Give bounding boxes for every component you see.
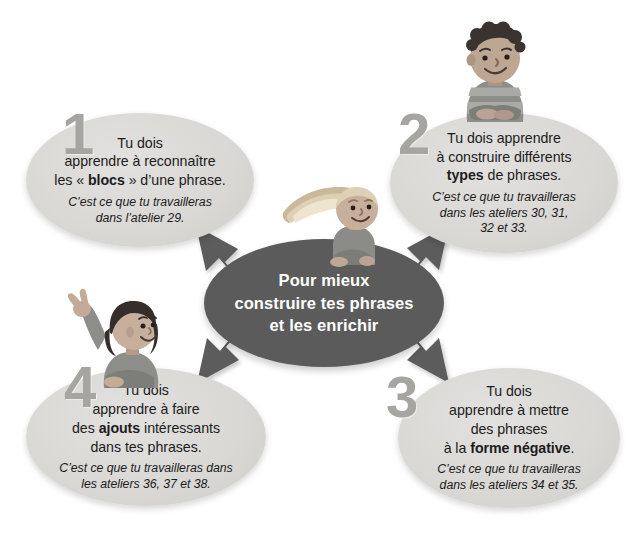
step-3-content: Tu doisapprendre à mettredes phrasesà la… — [414, 382, 605, 493]
step-2-content: Tu dois apprendreà construire différents… — [406, 129, 602, 237]
step-bubble-1[interactable]: Tu doisapprendre à reconnaîtreles « bloc… — [26, 113, 254, 247]
center-goal-text: Pour mieux construire tes phrases et les… — [220, 269, 427, 337]
character-boy-arms-crossed — [447, 18, 543, 122]
step-number-1: 1 — [62, 105, 94, 163]
infographic-page: Tu doisapprendre à reconnaîtreles « bloc… — [0, 0, 636, 546]
character-girl-waving — [58, 288, 176, 388]
step-1-sub-text: C’est ce que tu travaillerasdans l’ateli… — [42, 195, 238, 226]
character-girl-long-hair — [279, 183, 395, 275]
step-2-main-text: Tu dois apprendreà construire différents… — [406, 129, 602, 185]
step-2-sub-text: C’est ce que tu travaillerasdans les ate… — [406, 190, 602, 237]
girl-waving-illustration — [68, 289, 158, 388]
step-3-sub-text: C’est ce que tu travaillerasdans les ate… — [414, 462, 605, 493]
step-bubble-4[interactable]: Tu doisapprendre à fairedes ajouts intér… — [26, 368, 266, 506]
center-line-2: construire tes phrases — [234, 292, 413, 315]
step-number-2: 2 — [398, 105, 430, 163]
girl-illustration — [283, 187, 378, 267]
center-line-3: et les enrichir — [234, 314, 413, 337]
boy-illustration — [466, 22, 526, 123]
step-bubble-3[interactable]: Tu doisapprendre à mettredes phrasesà la… — [398, 368, 620, 508]
step-3-main-text: Tu doisapprendre à mettredes phrasesà la… — [414, 382, 605, 457]
step-number-3: 3 — [386, 368, 418, 426]
step-4-sub-text: C’est ce que tu travailleras dansles ate… — [43, 461, 249, 492]
